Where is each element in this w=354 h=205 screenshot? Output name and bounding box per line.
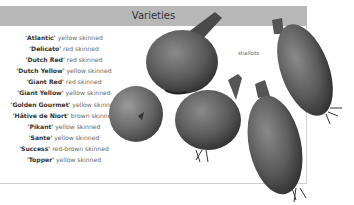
shallot-bulb-1 [146, 12, 222, 94]
image-label: shallots [238, 50, 259, 56]
shallot-bulb-2 [109, 86, 163, 142]
shallots-illustration [0, 0, 354, 205]
